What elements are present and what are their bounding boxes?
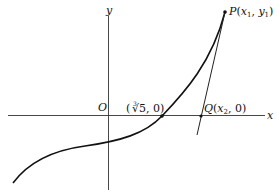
q-label: Q(x2, 0) — [204, 102, 246, 116]
svg-text:(: ( — [126, 102, 130, 115]
svg-text:, 0): , 0) — [146, 102, 164, 115]
origin-label: O — [98, 101, 107, 114]
x-axis-label: x — [267, 109, 274, 122]
svg-text:Q(x2, 0): Q(x2, 0) — [204, 102, 246, 116]
svg-text:√5: √5 — [132, 102, 146, 115]
function-curve — [13, 12, 225, 183]
diagram-canvas: x y O ( 3 √5 , 0) Q(x2, 0) P(x1, y1) — [0, 0, 277, 196]
p-label: P(x1, y1) — [228, 5, 273, 19]
p-point — [223, 10, 227, 14]
y-axis-label: y — [105, 4, 113, 17]
svg-text:P(x1, y1): P(x1, y1) — [228, 5, 273, 19]
root-label: ( 3 √5 , 0) — [126, 100, 164, 115]
q-point — [199, 114, 202, 117]
